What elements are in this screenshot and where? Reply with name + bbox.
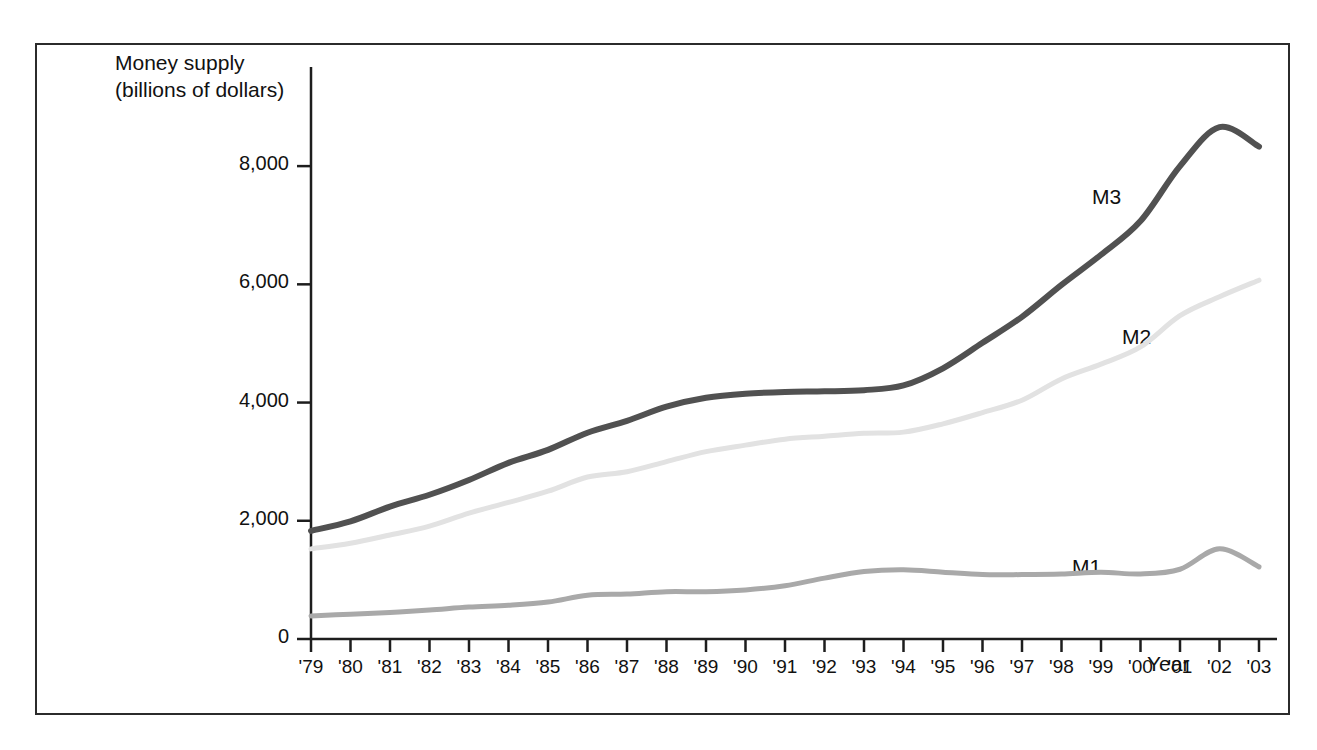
chart-frame: Money supply(billions of dollars) Year 0… <box>35 43 1290 715</box>
x-tick-marks <box>311 639 1259 652</box>
y-tick-marks <box>297 166 311 639</box>
plot-area <box>37 45 1288 713</box>
series-paths <box>311 127 1259 616</box>
series-line-m3 <box>311 127 1259 531</box>
series-line-m2 <box>311 280 1259 549</box>
series-line-m1 <box>311 549 1259 616</box>
